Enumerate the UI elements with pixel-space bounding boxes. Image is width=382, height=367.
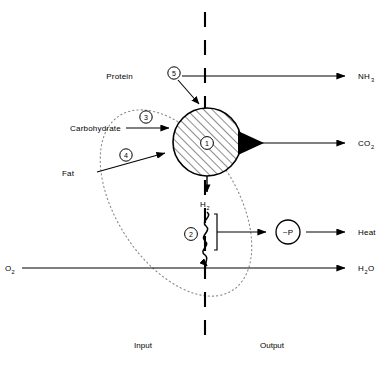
diagram-canvas: 5 Protein NH 3 3 Carbohydrate 4 Fat 1 xyxy=(0,0,382,367)
marker-3-label: 3 xyxy=(144,114,148,121)
output-section-label: Output xyxy=(260,341,285,350)
transport-bracket xyxy=(214,214,217,250)
marker-1-label: 1 xyxy=(205,140,209,147)
hydrogen-subscript: 2 xyxy=(207,205,210,211)
carbon-dioxide-label: CO xyxy=(358,139,370,148)
water-label: H xyxy=(358,264,364,273)
ammonia-label: NH xyxy=(358,72,370,81)
metabolism-diagram: 5 Protein NH 3 3 Carbohydrate 4 Fat 1 xyxy=(0,0,382,367)
marker-4-label: 4 xyxy=(124,152,128,159)
phosphate-label: ~P xyxy=(283,228,293,237)
metabolic-envelope-ellipse xyxy=(69,83,283,323)
ammonia-subscript: 3 xyxy=(371,77,374,83)
fat-input-group: 4 xyxy=(97,149,165,172)
oxygen-label: O xyxy=(5,264,11,273)
fat-label: Fat xyxy=(62,169,75,178)
carbohydrate-label: Carbohydrate xyxy=(70,124,121,133)
oxygen-water-group: O 2 H 2 O xyxy=(5,264,374,275)
hydrogen-label: H xyxy=(200,200,206,209)
marker-2-label: 2 xyxy=(189,231,193,238)
input-section-label: Input xyxy=(134,341,153,350)
carbon-dioxide-output-group: CO 2 xyxy=(238,131,374,155)
oxygen-subscript: 2 xyxy=(12,269,15,275)
carbohydrate-input-group: 3 xyxy=(126,111,169,128)
protein-label: Protein xyxy=(106,72,133,81)
protein-input-group: 5 xyxy=(168,67,345,104)
water-suffix: O xyxy=(368,264,374,273)
marker-5-label: 5 xyxy=(172,70,176,77)
carbon-dioxide-subscript: 2 xyxy=(371,144,374,150)
protein-into-cycle-arrow xyxy=(178,80,199,104)
phosphate-heat-group: ~P Heat xyxy=(217,220,376,244)
ammonia-output-label: NH 3 xyxy=(358,72,374,83)
hydrogen-transport-node: 2 xyxy=(185,212,217,266)
tricarboxylic-cycle-node: 1 xyxy=(173,108,241,176)
heat-label: Heat xyxy=(358,228,376,237)
